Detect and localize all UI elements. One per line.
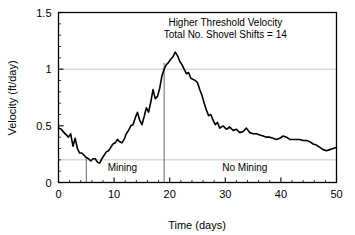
x-axis-title: Time (days) (168, 219, 226, 231)
y-tick-label-0.5: 0.5 (36, 120, 51, 132)
chart-container: 01020304050 00.511.5 Higher Threshold Ve… (0, 0, 355, 235)
x-tick-label-40: 40 (275, 188, 287, 200)
threshold-annotation-line-1: Total No. Shovel Shifts = 14 (164, 29, 288, 40)
x-axis-tick-labels: 01020304050 (55, 188, 342, 200)
x-axis-ticks (59, 178, 337, 183)
threshold-annotation-line-0: Higher Threshold Velocity (168, 17, 282, 28)
x-tick-label-20: 20 (164, 188, 176, 200)
x-tick-label-50: 50 (330, 188, 342, 200)
x-tick-label-10: 10 (108, 188, 120, 200)
no-mining-region-label-line-0: No Mining (222, 162, 267, 173)
chart-annotations: Higher Threshold VelocityTotal No. Shove… (108, 17, 288, 173)
x-tick-label-30: 30 (219, 188, 231, 200)
mining-region-label-line-0: Mining (108, 162, 137, 173)
y-tick-label-1.5: 1.5 (36, 7, 51, 19)
x-tick-label-0: 0 (55, 188, 61, 200)
y-axis-title: Velocity (ft/day) (6, 60, 18, 135)
velocity-time-chart: 01020304050 00.511.5 Higher Threshold Ve… (0, 0, 355, 235)
y-tick-label-0: 0 (45, 177, 51, 189)
y-tick-label-1: 1 (45, 63, 51, 75)
y-axis-ticks (59, 13, 64, 183)
y-axis-tick-labels: 00.511.5 (36, 7, 51, 189)
